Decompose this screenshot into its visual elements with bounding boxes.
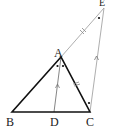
label-C: C (86, 115, 94, 129)
segment-CE (90, 8, 104, 112)
geometry-diagram: A B C D E (0, 0, 116, 138)
angle-dot-BAD (56, 65, 58, 67)
equal-length-tick-AE (80, 28, 86, 34)
angle-dot-ACE (88, 102, 90, 104)
label-E: E (99, 0, 105, 8)
label-A: A (54, 46, 63, 60)
angle-dot-AEC (98, 17, 100, 19)
label-B: B (6, 115, 14, 129)
parallel-arrow-CE (95, 56, 99, 60)
angle-dot-DAC (62, 65, 64, 67)
label-D: D (50, 115, 59, 129)
